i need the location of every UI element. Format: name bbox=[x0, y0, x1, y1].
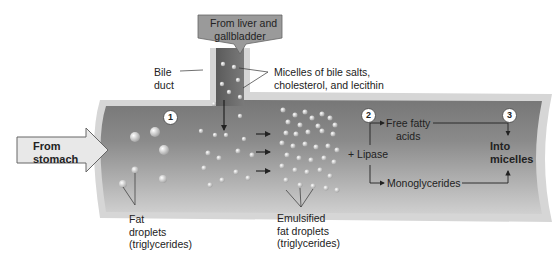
bile-duct-label: Bile duct bbox=[154, 66, 174, 91]
fat-droplets-line1: Fat bbox=[129, 213, 192, 226]
into-micelles-line2: micelles bbox=[490, 153, 533, 166]
fat-droplets-line3: (triglycerides) bbox=[129, 238, 192, 251]
bile-duct-line1: Bile bbox=[154, 66, 174, 79]
from-stomach-line2: stomach bbox=[33, 153, 78, 166]
emulsified-label: Emulsified fat droplets (triglycerides) bbox=[277, 212, 340, 250]
micelles-label: Micelles of bile salts, cholesterol, and… bbox=[274, 66, 384, 91]
fat-droplets-label: Fat droplets (triglycerides) bbox=[129, 213, 192, 251]
step-2-badge: 2 bbox=[361, 108, 376, 123]
from-stomach-label: From stomach bbox=[33, 140, 78, 166]
lipase-label: + Lipase bbox=[348, 148, 388, 161]
bile-duct-line2: duct bbox=[154, 79, 174, 92]
from-liver-label: From liver and gallbladder bbox=[210, 17, 270, 42]
free-fatty-acids-label: Free fatty acids bbox=[386, 117, 430, 142]
emulsified-line3: (triglycerides) bbox=[277, 237, 340, 250]
step-1-badge: 1 bbox=[163, 110, 178, 125]
emulsified-line1: Emulsified bbox=[277, 212, 340, 225]
step-3-badge: 3 bbox=[502, 108, 517, 123]
from-liver-line1: From liver and bbox=[210, 17, 270, 30]
free-fatty-line2: acids bbox=[386, 130, 430, 143]
monoglycerides-label: Monoglycerides bbox=[387, 177, 461, 190]
from-liver-line2: gallbladder bbox=[210, 30, 270, 43]
micelles-line1: Micelles of bile salts, bbox=[274, 66, 384, 79]
emulsified-line2: fat droplets bbox=[277, 225, 340, 238]
into-micelles-line1: Into bbox=[490, 140, 533, 153]
fat-droplets-line2: droplets bbox=[129, 226, 192, 239]
free-fatty-line1: Free fatty bbox=[386, 117, 430, 130]
micelles-line2: cholesterol, and lecithin bbox=[274, 79, 384, 92]
into-micelles-label: Into micelles bbox=[490, 140, 533, 166]
from-stomach-line1: From bbox=[33, 140, 78, 153]
